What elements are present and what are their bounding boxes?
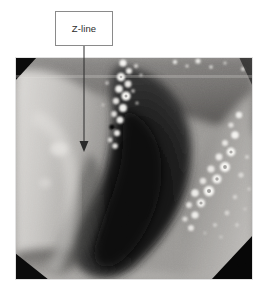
endoscopy-photo-canvas	[15, 57, 253, 280]
z-line-label: Z-line	[72, 24, 96, 34]
figure-root: Z-line	[0, 0, 265, 291]
z-line-callout-box: Z-line	[55, 11, 113, 46]
endoscopy-photo	[15, 57, 253, 280]
